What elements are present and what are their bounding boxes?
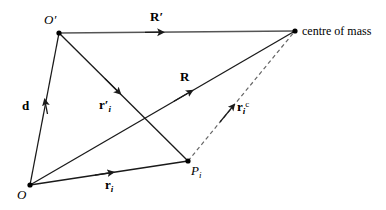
point-label-centre-of-mass: centre of mass — [302, 25, 371, 37]
vector-label-R-prime: R′ — [150, 10, 163, 23]
arrowhead-r-i — [95, 172, 113, 175]
vector-label-r-prime-i: r′i — [99, 98, 111, 114]
vector-label-r-i: ri — [105, 178, 113, 194]
arrowhead-r-i-c — [220, 105, 234, 122]
arrowhead-R — [174, 91, 192, 102]
vector-R-prime — [59, 31, 295, 33]
vector-r-prime-i — [59, 33, 188, 161]
point-label-O: O — [17, 188, 26, 201]
vector-R — [30, 31, 295, 185]
vector-d — [30, 33, 59, 185]
point-dot-centre-of-mass — [292, 28, 297, 33]
vector-diagram-figure: O O′ Pi centre of mass R′ d r′i R ri ric — [0, 0, 386, 210]
vector-label-d: d — [22, 99, 29, 112]
point-dot-O — [27, 182, 32, 187]
arrowhead-r-prime-i — [105, 79, 120, 94]
vector-label-r-i-c: ric — [237, 100, 249, 116]
point-label-Pi: Pi — [191, 164, 201, 180]
vector-label-R: R — [180, 70, 189, 83]
point-dot-Pi — [185, 158, 190, 163]
point-label-O-prime: O′ — [44, 13, 56, 26]
vector-r-i-c — [188, 31, 295, 161]
point-dot-O-prime — [56, 30, 61, 35]
